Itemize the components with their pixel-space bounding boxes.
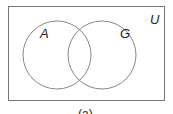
set-a-circle — [23, 21, 91, 89]
universe-rectangle — [9, 7, 165, 101]
set-g-label: G — [120, 26, 130, 41]
set-a-label: A — [39, 26, 49, 41]
venn-diagram: U A G (a) — [0, 0, 173, 114]
universe-label: U — [150, 12, 160, 27]
caption: (a) — [78, 107, 93, 114]
